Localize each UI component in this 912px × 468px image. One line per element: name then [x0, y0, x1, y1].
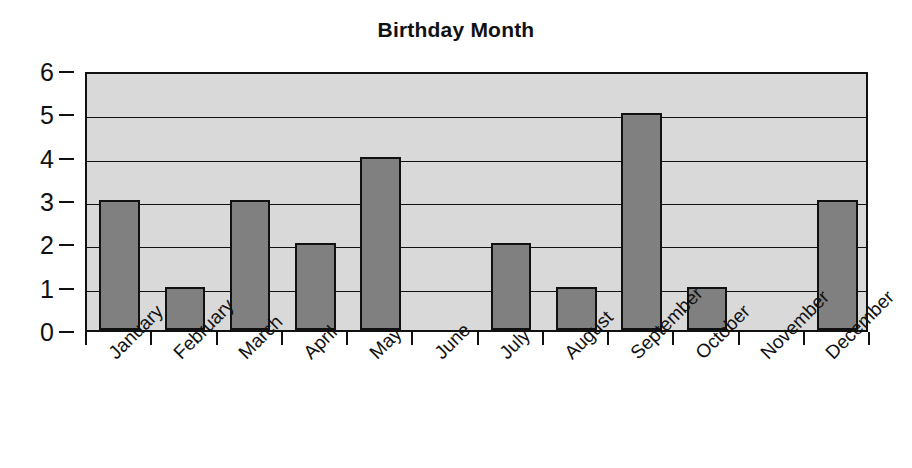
- y-tick-mark: [59, 201, 74, 203]
- x-tick-mark: [216, 332, 218, 345]
- y-tick-label: 1: [40, 276, 54, 301]
- x-tick-mark: [150, 332, 152, 345]
- y-tick-mark: [59, 114, 74, 116]
- y-tick-mark: [59, 158, 74, 160]
- bar-chart-figure: Birthday Month 0123456 JanuaryFebruaryMa…: [0, 0, 912, 468]
- y-tick-mark: [59, 244, 74, 246]
- x-tick-mark: [477, 332, 479, 345]
- bar: [491, 243, 531, 330]
- y-tick-label: 3: [40, 190, 54, 215]
- chart-title: Birthday Month: [0, 18, 912, 42]
- x-tick-mark: [868, 332, 870, 345]
- x-tick-mark: [85, 332, 87, 345]
- bar: [360, 157, 400, 330]
- y-tick-mark: [59, 288, 74, 290]
- plot-area: [85, 72, 868, 332]
- bar-series: [87, 74, 866, 330]
- y-tick-mark: [59, 71, 74, 73]
- x-tick-mark: [607, 332, 609, 345]
- x-axis: JanuaryFebruaryMarchAprilMayJuneJulyAugu…: [85, 332, 868, 468]
- y-tick-mark: [59, 331, 74, 333]
- y-axis: 0123456: [0, 0, 85, 468]
- x-tick-mark: [738, 332, 740, 345]
- y-tick-label: 0: [40, 320, 54, 345]
- x-tick-mark: [411, 332, 413, 345]
- x-tick-mark: [281, 332, 283, 345]
- x-tick-mark: [542, 332, 544, 345]
- x-tick-mark: [346, 332, 348, 345]
- bar: [621, 113, 661, 330]
- bar: [99, 200, 139, 330]
- bar: [295, 243, 335, 330]
- y-tick-label: 6: [40, 60, 54, 85]
- y-tick-label: 4: [40, 146, 54, 171]
- x-tick-mark: [672, 332, 674, 345]
- x-tick-mark: [803, 332, 805, 345]
- y-tick-label: 2: [40, 233, 54, 258]
- y-tick-label: 5: [40, 103, 54, 128]
